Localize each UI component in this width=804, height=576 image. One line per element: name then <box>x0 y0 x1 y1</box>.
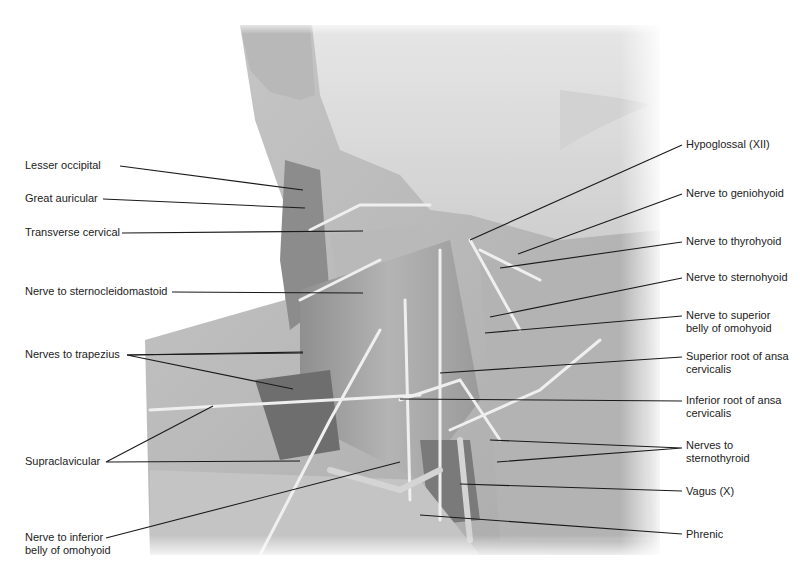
label-hypoglossal: Hypoglossal (XII) <box>686 138 770 151</box>
label-nerve-to-sternohyoid: Nerve to sternohyoid <box>686 271 788 284</box>
label-line-1: Nerves to <box>686 439 750 452</box>
label-line-2: cervicalis <box>686 363 789 376</box>
label-nerves-to-trapezius: Nerves to trapezius <box>25 348 120 361</box>
label-lesser-occipital: Lesser occipital <box>25 159 101 172</box>
label-vagus: Vagus (X) <box>686 485 734 498</box>
label-line-1: Inferior root of ansa <box>686 394 781 407</box>
label-nerve-to-superior-belly-of-omohyoid: Nerve to superior belly of omohyoid <box>686 309 772 335</box>
label-line-2: cervicalis <box>686 407 781 420</box>
anatomy-figure: Lesser occipital Great auricular Transve… <box>0 0 804 576</box>
label-nerve-to-thyrohyoid: Nerve to thyrohyoid <box>686 235 781 248</box>
label-line-2: belly of omohyoid <box>25 544 111 557</box>
label-transverse-cervical: Transverse cervical <box>25 226 120 239</box>
label-nerves-to-sternothyroid: Nerves to sternothyroid <box>686 439 750 465</box>
label-inferior-root-of-ansa-cervicalis: Inferior root of ansa cervicalis <box>686 394 781 420</box>
label-nerve-to-geniohyoid: Nerve to geniohyoid <box>686 187 784 200</box>
label-line-1: Nerve to inferior <box>25 531 111 544</box>
label-supraclavicular: Supraclavicular <box>25 455 100 468</box>
label-nerve-to-sternocleidomastoid: Nerve to sternocleidomastoid <box>25 285 167 298</box>
label-phrenic: Phrenic <box>686 528 723 541</box>
label-line-1: Nerve to superior <box>686 309 772 322</box>
label-line-2: sternothyroid <box>686 452 750 465</box>
label-nerve-to-inferior-belly-of-omohyoid: Nerve to inferior belly of omohyoid <box>25 531 111 557</box>
label-great-auricular: Great auricular <box>25 192 98 205</box>
label-line-1: Superior root of ansa <box>686 350 789 363</box>
label-line-2: belly of omohyoid <box>686 322 772 335</box>
label-superior-root-of-ansa-cervicalis: Superior root of ansa cervicalis <box>686 350 789 376</box>
